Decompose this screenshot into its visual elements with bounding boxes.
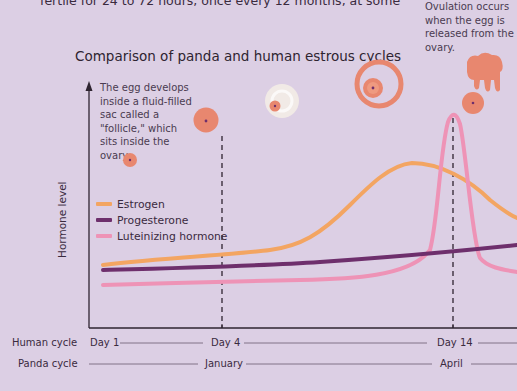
human-cycle-label: Human cycle [12, 337, 77, 348]
tick-day4: Day 4 [211, 337, 240, 348]
follicle-growing-icon [265, 84, 299, 118]
tick-january: January [205, 358, 243, 369]
y-axis-arrow-icon [86, 81, 93, 91]
legend-label: Progesterone [117, 214, 188, 227]
ruptured-follicle-icon [467, 53, 503, 92]
lh-swatch-icon [96, 234, 112, 238]
released-egg-icon [462, 92, 484, 114]
legend-item-lh: Luteinizing hormone [96, 228, 228, 244]
legend-label: Luteinizing hormone [117, 230, 228, 243]
legend: Estrogen Progesterone Luteinizing hormon… [96, 196, 228, 244]
follicle-mature-icon [357, 62, 401, 106]
y-axis-label: Hormone level [56, 181, 68, 258]
tick-april: April [440, 358, 463, 369]
progesterone-swatch-icon [96, 218, 112, 222]
estrogen-swatch-icon [96, 202, 112, 206]
tick-day14: Day 14 [437, 337, 473, 348]
legend-item-estrogen: Estrogen [96, 196, 228, 212]
panda-cycle-label: Panda cycle [18, 358, 78, 369]
chart-canvas [0, 0, 517, 391]
follicle-medium-icon [194, 108, 219, 133]
follicle-small-icon [123, 153, 137, 167]
legend-item-progesterone: Progesterone [96, 212, 228, 228]
tick-day1: Day 1 [90, 337, 119, 348]
legend-label: Estrogen [117, 198, 165, 211]
